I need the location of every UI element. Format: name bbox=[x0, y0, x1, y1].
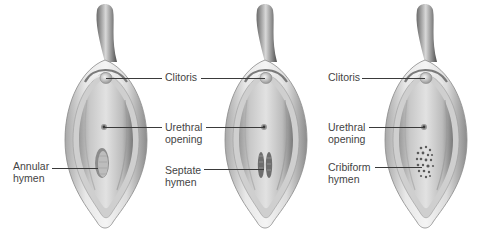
cribiform-hymen-label-line2: hymen bbox=[328, 173, 360, 185]
clitoris-leader-line-2 bbox=[201, 78, 265, 79]
annular-hymen-label-line2: hymen bbox=[13, 172, 45, 184]
urethral-label-middle-line1: Urethral bbox=[165, 121, 202, 133]
septate-hymen-leader-line bbox=[204, 169, 264, 170]
clitoris-label-right: Clitoris bbox=[328, 71, 360, 83]
clitoris-leader-line-3 bbox=[362, 78, 425, 79]
hymen-types-diagram: Clitoris Urethral opening Annular hymen … bbox=[0, 0, 485, 242]
urethral-leader-line-1 bbox=[104, 127, 162, 128]
annular-hymen-leader-line bbox=[52, 168, 98, 169]
urethral-label-right-line2: opening bbox=[328, 133, 365, 145]
cribiform-hymen-illustration bbox=[375, 0, 475, 242]
urethral-label-right-line1: Urethral bbox=[328, 121, 365, 133]
urethral-leader-line-3 bbox=[369, 127, 424, 128]
annular-hymen-label-line1: Annular bbox=[13, 160, 49, 172]
septate-hymen-label-line2: hymen bbox=[165, 176, 197, 188]
annular-hymen-illustration bbox=[55, 0, 155, 242]
clitoris-leader-line-1 bbox=[106, 78, 162, 79]
clitoris-label-middle: Clitoris bbox=[165, 71, 197, 83]
septate-hymen-label-line1: Septate bbox=[165, 164, 201, 176]
annular-hymen-opening bbox=[95, 148, 109, 178]
septate-hymen-illustration bbox=[215, 0, 315, 242]
cribiform-hymen-leader-line bbox=[375, 167, 422, 168]
cribiform-hymen-label-line1: Cribiform bbox=[328, 161, 371, 173]
urethral-label-middle-line2: opening bbox=[165, 133, 202, 145]
urethral-leader-line-2 bbox=[206, 127, 264, 128]
